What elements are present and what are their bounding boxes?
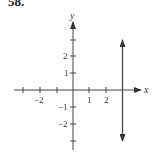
y-axis-label: y [69,10,75,21]
y-tick-label-2: 2 [63,51,68,61]
x-axis-label: x [143,84,149,95]
y-axis: 2 1 −1 −2 y [58,10,76,150]
x-tick-label-2: 2 [104,95,109,105]
y-tick-label-neg1: −1 [58,102,68,112]
x-tick-label-1: 1 [87,95,92,105]
coordinate-plane: −2 1 2 x 2 1 −1 −2 y [0,0,154,161]
y-tick-label-1: 1 [64,68,69,78]
x-axis: −2 1 2 x [14,84,149,105]
x-tick-label-neg2: −2 [34,95,44,105]
y-tick-label-neg2: −2 [58,119,68,129]
